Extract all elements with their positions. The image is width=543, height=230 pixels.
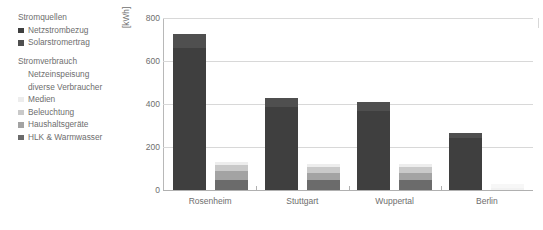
y-axis-tick-label: 0 (155, 185, 160, 195)
bar-segment (173, 48, 206, 190)
x-axis-tick-label: Berlin (441, 196, 533, 206)
legend-item-beleuchtung[interactable]: Beleuchtung (18, 106, 136, 119)
bar-stromquellen[interactable] (449, 133, 482, 190)
legend-swatch-icon (18, 110, 24, 116)
bar-segment (307, 180, 340, 190)
y-axis-ticks: 0200400600800 (139, 14, 163, 214)
bar-group: Rosenheim (164, 14, 256, 190)
bars-container: RosenheimStuttgartWuppertalBerlin (164, 14, 533, 190)
x-axis-group-separator (441, 186, 442, 191)
legend-item-label: HLK & Warmwasser (28, 132, 102, 143)
legend-group-stromverbrauch: Stromverbrauch Netzeinspeisung diverse V… (18, 56, 136, 144)
plot-right-edge (538, 18, 539, 28)
legend-item-netzeinspeisung[interactable]: Netzeinspeisung (18, 68, 136, 81)
legend-item-label: Medien (28, 94, 55, 105)
legend-swatch-icon (18, 40, 24, 46)
bar-stromquellen[interactable] (173, 34, 206, 190)
x-axis-group-separator (256, 186, 257, 191)
legend-item-solarstromertrag[interactable]: Solarstromertrag (18, 37, 136, 50)
x-axis-tick-label: Rosenheim (164, 196, 256, 206)
y-axis-tick-label: 800 (146, 13, 160, 23)
legend-item-label: Beleuchtung (28, 107, 74, 118)
bar-segment (173, 34, 206, 48)
bar-group: Berlin (441, 14, 533, 190)
bar-segment (265, 107, 298, 190)
y-axis-tick-label: 200 (146, 142, 160, 152)
legend-item-label: diverse Verbraucher (28, 82, 102, 93)
y-axis-tick-label: 600 (146, 56, 160, 66)
legend-item-hlk-warmwasser[interactable]: HLK & Warmwasser (18, 131, 136, 144)
legend-swatch-icon (18, 28, 24, 34)
y-axis-tick-label: 400 (146, 99, 160, 109)
legend-swatch-icon (18, 122, 24, 128)
bar-stromverbrauch[interactable] (215, 162, 248, 190)
bar-stromquellen[interactable] (265, 98, 298, 190)
legend-group-stromquellen: Stromquellen Netzstrombezug Solarstromer… (18, 12, 136, 49)
chart-legend: Stromquellen Netzstrombezug Solarstromer… (18, 12, 136, 144)
bar-segment (399, 173, 432, 181)
legend-item-netzstrombezug[interactable]: Netzstrombezug (18, 24, 136, 37)
legend-item-haushaltsgeraete[interactable]: Haushaltsgeräte (18, 119, 136, 132)
chart-root: Stromquellen Netzstrombezug Solarstromer… (0, 0, 543, 230)
y-axis-label: [kWh] (121, 7, 131, 28)
bar-stromquellen[interactable] (357, 102, 390, 190)
legend-item-label: Haushaltsgeräte (28, 119, 88, 130)
bar-segment (449, 138, 482, 190)
legend-group-title: Stromverbrauch (18, 56, 136, 67)
legend-item-label: Netzstrombezug (28, 25, 88, 36)
legend-swatch-icon (18, 97, 24, 103)
legend-group-title: Stromquellen (18, 12, 136, 23)
bar-segment (215, 180, 248, 190)
bar-segment (399, 180, 432, 190)
legend-item-medien[interactable]: Medien (18, 93, 136, 106)
legend-item-label: Solarstromertrag (28, 37, 90, 48)
bar-stromverbrauch[interactable] (399, 164, 432, 190)
bar-group: Stuttgart (256, 14, 348, 190)
bar-segment (265, 98, 298, 108)
legend-swatch-icon (18, 135, 24, 141)
bar-stromverbrauch[interactable] (307, 164, 340, 190)
bar-segment (357, 111, 390, 190)
bar-segment (357, 102, 390, 111)
bar-group: Wuppertal (349, 14, 441, 190)
bar-stromverbrauch[interactable] (491, 184, 524, 190)
legend-item-diverse-verbraucher[interactable]: diverse Verbraucher (18, 81, 136, 94)
bar-segment (215, 171, 248, 180)
bar-segment (307, 173, 340, 181)
legend-item-label: Netzeinspeisung (28, 69, 89, 80)
x-axis-group-separator (349, 186, 350, 191)
plot-area: [kWh] 0200400600800 RosenheimStuttgartWu… (139, 14, 539, 214)
x-axis-tick-label: Stuttgart (256, 196, 348, 206)
bar-segment (491, 188, 524, 190)
x-axis-tick-label: Wuppertal (349, 196, 441, 206)
